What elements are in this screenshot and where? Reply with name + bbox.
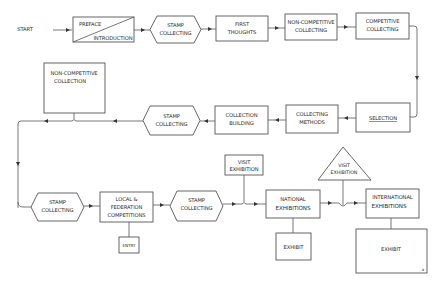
stamp-collecting-node-2[interactable]: STAMP COLLECTING: [143, 106, 200, 135]
non-competitive-collecting-node[interactable]: NON-COMPETITIVE COLLECTING: [285, 14, 337, 40]
collection-building-line2: BUILDING: [229, 120, 253, 126]
start-label: START: [17, 26, 33, 32]
stamp1-line1: STAMP: [167, 22, 184, 28]
local-federation-competitions-node[interactable]: LOCAL & FEDERATION COMPETITIONS: [100, 192, 153, 222]
visit-exhibition-box-line1: VISIT: [238, 159, 252, 165]
connector-building-stamp2: [200, 119, 215, 123]
non-competitive-collecting-line2: COLLECTING: [295, 27, 327, 33]
exhibit-national-label: EXHIBIT: [284, 244, 305, 250]
stamp1-line2: COLLECTING: [160, 30, 192, 36]
international-exhibitions-line1: INTERNATIONAL: [372, 194, 412, 200]
national-exhibitions-line2: EXHIBITIONS: [276, 205, 311, 211]
collecting-methods-line2: METHODS: [299, 119, 325, 125]
visit-exhibition-triangle-node[interactable]: VISIT EXHIBITION: [318, 147, 371, 180]
visit-exhibition-triangle-line1: VISIT: [338, 163, 350, 168]
introduction-label: INTRODUCTION: [93, 35, 132, 41]
connector-stamp1-first-thoughts: [201, 27, 216, 31]
national-exhibitions-line1: NATIONAL: [280, 196, 306, 202]
selection-label: SELECTION: [369, 115, 397, 121]
visit-exhibition-box-line2: EXHIBITION: [229, 166, 258, 172]
stamp-collecting-node-4[interactable]: STAMP COLLECTING: [170, 191, 223, 221]
entry-label: ENTRY: [122, 243, 136, 248]
preface-label: PREFACE: [79, 21, 101, 27]
preface-introduction-node[interactable]: PREFACE INTRODUCTION: [73, 17, 134, 42]
competitive-collecting-node[interactable]: COMPETITIVE COLLECTING: [356, 13, 409, 39]
competitive-collecting-line2: COLLECTING: [367, 26, 399, 32]
national-exhibitions-node[interactable]: NATIONAL EXHIBITIONS: [266, 190, 320, 218]
international-exhibitions-node[interactable]: INTERNATIONAL EXHIBITIONS: [366, 189, 419, 218]
connector-selection-methods: [338, 116, 356, 120]
local-federation-line2: FEDERATION: [111, 204, 143, 210]
local-federation-line3: COMPETITIONS: [107, 212, 145, 218]
stamp-collecting-node-1[interactable]: STAMP COLLECTING: [150, 16, 201, 43]
connector-competitive-selection: [409, 26, 419, 117]
competitive-collecting-line1: COMPETITIVE: [366, 18, 400, 24]
international-exhibitions-line2: EXHIBITIONS: [372, 203, 407, 209]
stamp2-line2: COLLECTING: [156, 121, 188, 127]
stamp-collecting-flowchart: START PREFACE INTRODUCTION STAMP COLLECT…: [0, 0, 442, 284]
connector-preface-stamp1: [134, 28, 150, 32]
connector-non-competitive-competitive: [337, 25, 356, 29]
first-thoughts-line2: THOUGHTS: [227, 29, 257, 35]
collecting-methods-line1: COLLECTING: [296, 111, 328, 117]
collecting-methods-node[interactable]: COLLECTING METHODS: [286, 105, 338, 133]
connector-stamp3-local: [84, 204, 100, 208]
connector-local-stamp4: [153, 203, 170, 207]
entry-node[interactable]: ENTRY: [119, 237, 139, 253]
connector-stamp4-national: [223, 175, 266, 206]
stamp3-line2: COLLECTING: [42, 207, 74, 213]
visit-exhibition-box-node[interactable]: VISIT EXHIBITION: [225, 155, 263, 175]
non-competitive-collection-line2: COLLECTION: [54, 78, 86, 84]
collection-building-line1: COLLECTION: [225, 112, 257, 118]
connector-start-preface: [53, 28, 72, 32]
stamp4-line2: COLLECTING: [181, 205, 213, 211]
selection-node[interactable]: SELECTION: [356, 103, 410, 132]
visit-exhibition-triangle-line2: EXHIBITION: [331, 170, 358, 175]
non-competitive-collection-node[interactable]: NON-COMPETITIVE COLLECTION: [44, 63, 105, 113]
stamp-collecting-node-3[interactable]: STAMP COLLECTING: [31, 193, 84, 221]
first-thoughts-line1: FIRST: [235, 21, 250, 27]
exhibit-international-node[interactable]: EXHIBIT a: [356, 229, 427, 273]
non-competitive-collection-line1: NON-COMPETITIVE: [50, 70, 97, 76]
first-thoughts-node[interactable]: FIRST THOUGHTS: [216, 16, 268, 41]
non-competitive-collecting-line1: NON-COMPETITIVE: [287, 19, 334, 25]
connector-national-international: [320, 180, 366, 206]
stamp3-line1: STAMP: [49, 199, 66, 205]
exhibit-national-node[interactable]: EXHIBIT: [276, 233, 311, 260]
stamp4-line1: STAMP: [188, 197, 205, 203]
collection-building-node[interactable]: COLLECTION BUILDING: [215, 106, 268, 134]
connector-first-thoughts-non-competitive: [268, 26, 285, 30]
stamp2-line1: STAMP: [163, 113, 180, 119]
local-federation-line1: LOCAL &: [116, 196, 138, 202]
connector-methods-building: [268, 118, 286, 122]
exhibit-international-label: EXHIBIT: [381, 246, 402, 252]
